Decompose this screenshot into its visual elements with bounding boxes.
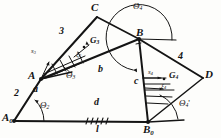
theta-4-prime-reference-line — [148, 120, 184, 122]
angle-label-theta-3: Θ3 — [66, 71, 75, 81]
link-3-line-CB — [97, 17, 139, 39]
dimension-label-b: b — [98, 64, 103, 74]
s4-arrowhead — [158, 76, 161, 79]
cg-label-G3: G3 — [90, 36, 99, 46]
link-number-4: 4 — [178, 51, 183, 61]
kinematic-diagram-figure: A0 A C B D B0 2 3 4 a b c d l Θ2 Θ3 Θ4 Θ… — [0, 0, 221, 138]
dimension-label-a: a — [33, 84, 38, 94]
cg-G3-arrowhead — [86, 41, 90, 45]
dimension-label-d: d — [94, 97, 99, 107]
link-number-3: 3 — [59, 26, 64, 36]
joint-label-B: B — [136, 27, 143, 38]
offset-label-s3: s3 — [31, 48, 36, 55]
cg-G4-dot — [163, 78, 166, 81]
joint-label-A0: A0 — [2, 112, 13, 124]
cg-G3-dot — [83, 46, 86, 49]
theta-4-reference-line — [139, 39, 176, 40]
link-4-offset-band — [143, 78, 174, 104]
joint-label-A: A — [28, 70, 35, 81]
angle-label-theta-4-prime: Θ4' — [179, 99, 190, 109]
cg-label-G4: G4 — [169, 71, 178, 81]
offset-label-s4: s4 — [148, 69, 153, 76]
angle-label-theta-4: Θ4 — [133, 2, 142, 12]
link-4-line-BB0 — [139, 39, 148, 122]
dimension-label-l: l — [96, 124, 99, 134]
joint-label-C: C — [91, 2, 98, 13]
dimension-label-c: c — [134, 76, 138, 86]
offset-label-xi4: ξ4 — [161, 83, 166, 90]
link-number-2: 2 — [14, 88, 19, 98]
joint-label-D: D — [205, 69, 213, 80]
angle-label-theta-2: Θ2 — [40, 101, 49, 111]
theta-4-prime-arc — [160, 95, 178, 119]
link-4-line-DB0 — [148, 78, 203, 122]
ground-link-line — [14, 121, 148, 122]
theta-4-arrowhead — [133, 69, 137, 73]
offset-label-xi3: ξ3 — [76, 51, 81, 58]
joint-label-B0: B0 — [143, 124, 154, 136]
